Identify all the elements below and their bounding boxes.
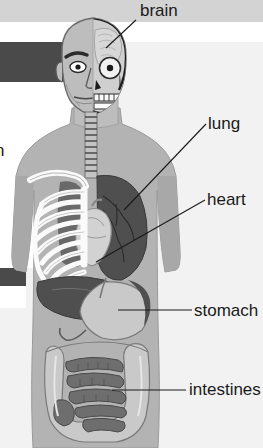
- label-intestines: intestines: [189, 381, 261, 398]
- label-brain: brain: [140, 2, 178, 19]
- label-lung: lung: [208, 115, 240, 132]
- label-stomach: stomach: [194, 302, 258, 319]
- head-face-skull: [56, 10, 139, 120]
- anatomy-diagram: brain lung heart stomach intestines n: [0, 0, 263, 448]
- trachea-spine: [85, 112, 97, 178]
- label-clipped-partial: n: [0, 142, 4, 159]
- label-heart: heart: [207, 191, 246, 208]
- intestines: [45, 342, 150, 442]
